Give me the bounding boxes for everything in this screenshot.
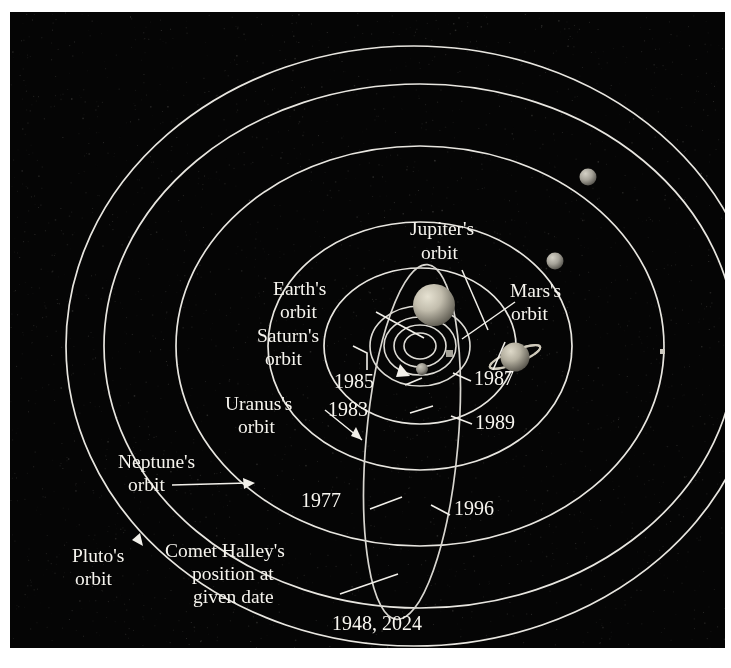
diagram-labels: Jupiter's orbit Earth's orbit Saturn's o…: [72, 218, 561, 634]
comet-halley-orbit-group: [351, 261, 474, 624]
year-marker-1977: 1977: [301, 489, 341, 511]
solar-system-figure: Jupiter's orbit Earth's orbit Saturn's o…: [10, 12, 725, 648]
label-neptune-orbit-line1: Neptune's: [118, 451, 195, 472]
label-comet-caption-line3: given date: [193, 586, 274, 607]
jupiter-leader: [462, 270, 488, 330]
year-marker-1985: 1985: [334, 370, 374, 392]
label-pluto-orbit-line1: Pluto's: [72, 545, 124, 566]
label-uranus-orbit-line2: orbit: [238, 416, 275, 437]
label-jupiter-orbit-line2: orbit: [421, 242, 458, 263]
label-uranus-orbit-line1: Uranus's: [225, 393, 292, 414]
label-earth-orbit-line1: Earth's: [273, 278, 326, 299]
label-mars-orbit-line1: Mars's: [510, 280, 561, 301]
neptune-arrowhead: [243, 478, 255, 489]
year-marker-1983: 1983: [328, 398, 368, 420]
orbit-diagram: Jupiter's orbit Earth's orbit Saturn's o…: [10, 12, 725, 648]
neptune-planet: [580, 169, 597, 186]
comet-caption-leader: [340, 574, 398, 594]
saturn-tick: [353, 346, 367, 370]
venus-orbit: [394, 325, 446, 367]
tick-1983: [410, 406, 433, 413]
mercury-orbit: [404, 333, 436, 359]
year-marker-1987: 1987: [474, 367, 514, 389]
pluto-arrowhead: [132, 533, 143, 546]
label-jupiter-orbit-line1: Jupiter's: [410, 218, 474, 239]
tick-1977: [370, 497, 402, 509]
tick-1985: [405, 378, 422, 385]
uranus-planet: [547, 253, 564, 270]
year-marker-1948-2024: 1948, 2024: [332, 612, 422, 634]
label-neptune-orbit-line2: orbit: [128, 474, 165, 495]
tick-1996: [431, 505, 450, 515]
jupiter-planet: [413, 284, 455, 326]
neptune-orbit: [104, 84, 725, 608]
label-saturn-orbit-line1: Saturn's: [257, 325, 319, 346]
inner-planet-body: [416, 363, 428, 375]
label-mars-orbit-line2: orbit: [511, 303, 548, 324]
comet-halley-orbit: [351, 261, 474, 624]
pluto-planet: [660, 349, 665, 354]
label-pluto-orbit-line2: orbit: [75, 568, 112, 589]
tick-1987: [453, 373, 471, 381]
year-marker-1996: 1996: [454, 497, 494, 519]
label-comet-caption-line2: position at: [192, 563, 274, 584]
label-earth-orbit-line2: orbit: [280, 301, 317, 322]
label-comet-caption-line1: Comet Halley's: [165, 540, 285, 561]
uranus-arrowhead: [351, 427, 362, 440]
mars-leader: [462, 302, 515, 339]
arrow-1985: [396, 364, 410, 377]
year-marker-1989: 1989: [475, 411, 515, 433]
neptune-leader: [172, 483, 248, 485]
label-saturn-orbit-line2: orbit: [265, 348, 302, 369]
comet-position-marker: [446, 350, 453, 357]
